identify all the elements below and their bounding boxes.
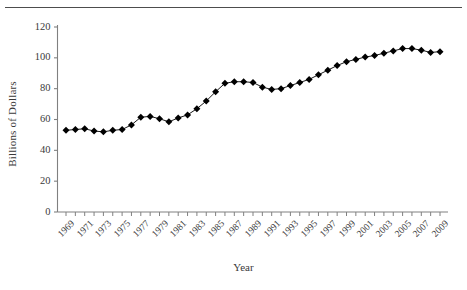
- data-point-marker: [315, 71, 322, 78]
- data-point-marker: [240, 78, 247, 85]
- y-axis-tick-label: 20: [17, 176, 51, 187]
- data-point-marker: [231, 78, 238, 85]
- data-point-marker: [324, 67, 331, 74]
- chart-plot-area: [0, 0, 467, 290]
- data-point-marker: [175, 114, 182, 121]
- data-point-marker: [408, 45, 415, 52]
- data-point-marker: [165, 118, 172, 125]
- data-point-marker: [72, 126, 79, 133]
- data-point-marker: [427, 49, 434, 56]
- data-point-marker: [418, 47, 425, 54]
- y-axis-tick-label: 40: [17, 145, 51, 156]
- data-point-marker: [91, 128, 98, 135]
- data-point-marker: [268, 86, 275, 93]
- data-point-marker: [399, 45, 406, 52]
- data-point-marker: [184, 111, 191, 118]
- data-point-marker: [156, 115, 163, 122]
- data-point-marker: [362, 54, 369, 61]
- data-point-marker: [306, 76, 313, 83]
- data-point-marker: [334, 62, 341, 69]
- y-axis-tick-label: 120: [17, 22, 51, 33]
- data-point-marker: [380, 50, 387, 57]
- series-line: [66, 49, 440, 132]
- data-point-marker: [109, 127, 116, 134]
- data-point-marker: [296, 79, 303, 86]
- y-axis-tick-label: 60: [17, 114, 51, 125]
- data-point-marker: [437, 48, 444, 55]
- data-point-marker: [390, 47, 397, 54]
- data-point-marker: [259, 84, 266, 91]
- data-point-marker: [250, 79, 257, 86]
- data-point-marker: [371, 52, 378, 59]
- data-point-marker: [287, 82, 294, 89]
- data-point-marker: [147, 113, 154, 120]
- y-axis-tick-label: 100: [17, 52, 51, 63]
- y-axis-tick-label: 80: [17, 83, 51, 94]
- data-point-marker: [343, 58, 350, 65]
- data-point-marker: [63, 127, 70, 134]
- data-point-marker: [100, 128, 107, 135]
- data-point-marker: [81, 125, 88, 132]
- data-point-marker: [119, 126, 126, 133]
- data-point-marker: [352, 56, 359, 63]
- data-point-marker: [278, 85, 285, 92]
- y-axis-tick-label: 0: [17, 207, 51, 218]
- chart-figure: Billions of Dollars Year 020406080100120…: [0, 0, 467, 290]
